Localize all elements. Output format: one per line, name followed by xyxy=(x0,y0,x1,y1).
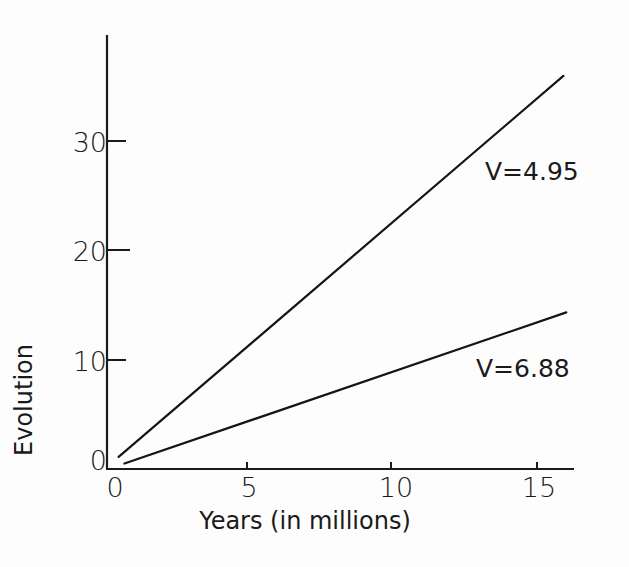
x-tick-label-0: 0 xyxy=(106,472,123,503)
annotation-v-6-88: V=6.88 xyxy=(476,354,570,383)
x-tick-label-15: 15 xyxy=(522,472,556,503)
series-line-v-4-95 xyxy=(119,76,564,457)
line-chart: 0 10 20 30 0 5 10 15 Years (in millions)… xyxy=(0,0,629,567)
x-axis-title: Years (in millions) xyxy=(198,507,411,535)
y-tick-labels: 0 10 20 30 xyxy=(73,127,107,476)
y-tick-label-30: 30 xyxy=(73,127,107,158)
y-tick-label-10: 10 xyxy=(73,346,107,377)
y-tick-label-0: 0 xyxy=(90,445,107,476)
x-tick-label-5: 5 xyxy=(240,472,257,503)
x-tick-labels: 0 5 10 15 xyxy=(106,472,556,503)
x-tick-label-10: 10 xyxy=(379,472,413,503)
y-ticks xyxy=(108,141,130,360)
y-axis-title: Evolution xyxy=(10,344,38,456)
y-tick-label-20: 20 xyxy=(73,236,107,267)
series-line-v-6-88 xyxy=(124,312,566,463)
annotation-v-4-95: V=4.95 xyxy=(485,157,579,186)
